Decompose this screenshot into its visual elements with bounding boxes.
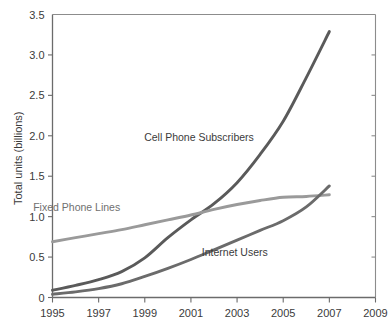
series-label-internet-users: Internet Users [202,246,268,258]
y-tick-label: 1.5 [29,170,44,182]
y-tick-label: 2.0 [29,130,44,142]
series-label-fixed-phone-lines: Fixed Phone Lines [33,201,120,213]
y-tick-label: 0 [38,292,44,304]
series-label-cell-phone-subscribers: Cell Phone Subscribers [144,131,254,143]
line-chart: 00.51.01.52.02.53.03.5 19951997199920012… [0,0,392,335]
y-tick-label: 2.5 [29,89,44,101]
x-tick-label: 1997 [86,307,110,319]
x-tick-label: 1995 [40,307,64,319]
chart-background [0,0,392,335]
x-tick-label: 2005 [271,307,295,319]
x-tick-label: 2007 [317,307,341,319]
chart-canvas: 00.51.01.52.02.53.03.5 19951997199920012… [0,0,392,335]
y-tick-label: 3.5 [29,9,44,21]
x-tick-label: 2003 [225,307,249,319]
y-axis-title: Total units (billions) [12,111,24,205]
x-tick-label: 2009 [363,307,387,319]
y-tick-label: 0.5 [29,251,44,263]
x-tick-label: 2001 [179,307,203,319]
x-tick-label: 1999 [133,307,157,319]
y-tick-label: 3.0 [29,49,44,61]
